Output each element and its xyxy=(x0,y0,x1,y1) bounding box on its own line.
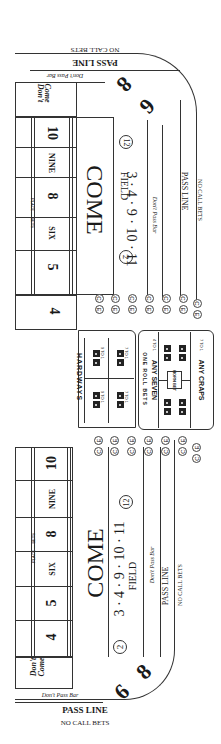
top-field-2: 2 xyxy=(119,250,133,264)
top-pass-line-label: PASS LINE xyxy=(60,57,130,69)
ce-bet[interactable]: CE xyxy=(94,294,104,316)
e-circle: E xyxy=(111,305,120,314)
bottom-place-5[interactable]: 5 xyxy=(41,589,63,617)
e-circle: E xyxy=(162,305,171,314)
e-circle: E xyxy=(193,310,202,319)
ce-bet[interactable]: CE xyxy=(127,294,137,316)
top-place-10[interactable]: 10 xyxy=(41,119,63,147)
bottom-no-call-vertical: NO CALL BETS xyxy=(175,545,185,625)
ce-bet[interactable]: CE xyxy=(144,294,154,316)
horn-bet[interactable]: HORN BET xyxy=(167,371,182,389)
c-circle: C xyxy=(145,294,154,303)
bottom-place-nine[interactable]: NINE xyxy=(41,485,63,513)
bottom-field-12: 12 xyxy=(119,495,133,509)
bottom-dont-pass-vertical: Don't Pass Bar xyxy=(147,525,157,605)
e-circle: E xyxy=(145,305,154,314)
top-pass-line-vertical: PASS LINE xyxy=(179,156,191,226)
c-circle: C xyxy=(192,454,201,463)
c-circle: C xyxy=(162,294,171,303)
e-circle: E xyxy=(178,436,187,445)
hard-4-odds: 9 TO 1 xyxy=(100,382,106,412)
horn-3[interactable] xyxy=(175,392,189,422)
top-no-call-vertical: NO CALL BETS xyxy=(195,160,205,240)
e-circle: E xyxy=(179,305,188,314)
top-place-nine[interactable]: NINE xyxy=(41,149,63,177)
hard-6-odds: 7 TO 1 xyxy=(124,382,130,412)
c-circle: C xyxy=(95,294,104,303)
top-dont-come-text-2: Come xyxy=(43,81,53,106)
ce-bet[interactable]: CE xyxy=(178,434,188,456)
top-place-4[interactable]: 4 xyxy=(43,297,65,325)
horn-2[interactable] xyxy=(160,392,174,422)
top-field-12: 12 xyxy=(119,135,133,149)
e-circle: E xyxy=(192,443,201,452)
ce-bet[interactable]: CE xyxy=(178,294,188,316)
ce-bet[interactable]: CE xyxy=(110,294,120,316)
c-circle: C xyxy=(179,294,188,303)
c-circle: C xyxy=(128,294,137,303)
bottom-no-call-bets: NO CALL BETS xyxy=(40,718,130,728)
top-field-12-text: 12 xyxy=(122,138,131,146)
bottom-place-bets-label: PLACE — BETS xyxy=(30,513,36,583)
ce-bet[interactable]: CE xyxy=(192,441,202,463)
top-come-label: COME xyxy=(80,160,110,240)
bottom-dont-pass-bar-label: Don't Pass Bar xyxy=(20,690,100,700)
top-place-5[interactable]: 5 xyxy=(41,253,63,281)
hard-8-odds: 7 TO 1 xyxy=(124,338,130,368)
bottom-dont-come-text-2: Come xyxy=(36,655,46,680)
any-craps-odds: 7 TO 1 xyxy=(199,330,205,360)
hard-10-odds: 9 TO 1 xyxy=(100,338,106,368)
top-place-8[interactable]: 8 xyxy=(41,182,63,210)
bottom-place-8[interactable]: 8 xyxy=(41,520,63,548)
c-circle: C xyxy=(178,447,187,456)
c-circle: C xyxy=(193,299,202,308)
top-place-six[interactable]: SIX xyxy=(41,219,63,247)
top-no-call-bets: NO CALL BETS xyxy=(55,45,135,55)
e-circle: E xyxy=(95,305,104,314)
top-field-label: FIELD xyxy=(119,166,131,206)
bottom-place-six[interactable]: SIX xyxy=(41,555,63,583)
ce-bet[interactable]: CE xyxy=(192,299,202,321)
top-dont-pass-bar-label: Don't Pass Bar xyxy=(30,71,100,81)
ce-bet[interactable]: CE xyxy=(161,294,171,316)
horn-12[interactable] xyxy=(160,338,174,368)
bottom-come-label[interactable]: COME xyxy=(80,518,110,608)
bottom-pass-line-label[interactable]: PASS LINE xyxy=(45,704,125,716)
c-circle: C xyxy=(111,294,120,303)
bottom-place-10[interactable]: 10 xyxy=(41,449,63,477)
horn-bet-label: HORN BET xyxy=(172,370,177,391)
top-dont-pass-vertical: Don't Pass Bar xyxy=(150,175,160,255)
bottom-pass-line-vertical: PASS LINE xyxy=(159,551,171,621)
one-roll-bets-label: ONE ROLL BETS xyxy=(141,344,149,414)
e-circle: E xyxy=(128,305,137,314)
horn-11[interactable] xyxy=(175,338,189,368)
top-place-bets-label: PLACE — BETS xyxy=(30,178,36,248)
bottom-place-4[interactable]: 4 xyxy=(41,623,63,651)
bottom-field-2-text: 2 xyxy=(115,645,125,650)
top-field-2-text: 2 xyxy=(121,255,131,260)
bottom-field-12-text: 12 xyxy=(122,498,131,506)
hardways-label: HARDWAYS xyxy=(75,347,85,407)
bottom-field-2: 2 xyxy=(113,640,127,654)
bottom-field-label: FIELD xyxy=(126,556,138,596)
